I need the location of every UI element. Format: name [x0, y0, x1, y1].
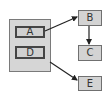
- edge-a-to-b-arrow-icon: [45, 17, 77, 31]
- diagram: A D B C E: [0, 0, 111, 96]
- edge-d-to-e-arrow-icon: [50, 62, 77, 80]
- edges-layer: [0, 0, 111, 96]
